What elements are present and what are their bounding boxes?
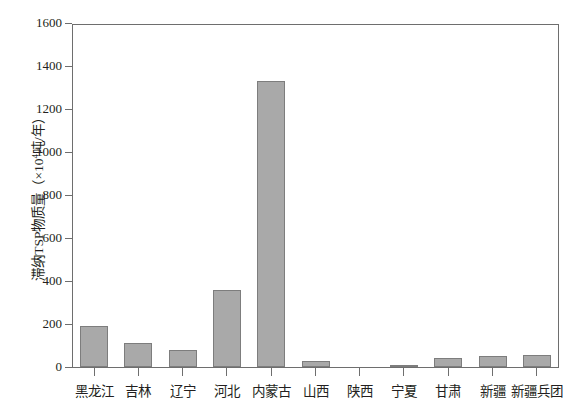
y-axis-tick-label: 1400 <box>20 58 62 74</box>
y-axis-tick <box>65 109 72 110</box>
x-axis-tick-label: 山西 <box>303 380 329 400</box>
x-axis-tick-label: 辽宁 <box>170 380 196 400</box>
bar <box>434 358 462 367</box>
x-axis-tick-label: 黑龙江 <box>75 380 114 400</box>
x-axis-tick <box>271 368 272 376</box>
y-axis-tick <box>65 23 72 24</box>
x-axis-tick-label: 新疆 <box>480 380 506 400</box>
bar <box>302 361 330 367</box>
bar <box>213 290 241 367</box>
x-axis-tick <box>403 368 404 376</box>
x-axis-tick-label: 新疆兵团 <box>511 380 563 400</box>
bar-chart: 滞纳TSP物质量（×104吨/年） 0200400600800100012001… <box>0 0 582 414</box>
bars-layer <box>73 25 558 367</box>
bar <box>124 343 152 367</box>
bar <box>479 356 507 367</box>
x-axis-tick-label: 内蒙古 <box>252 380 291 400</box>
y-axis-tick-label: 200 <box>20 316 62 332</box>
x-axis-tick <box>492 368 493 376</box>
x-axis-tick <box>315 368 316 376</box>
x-axis-tick <box>359 368 360 376</box>
x-axis-tick <box>94 368 95 376</box>
x-axis-tick <box>182 368 183 376</box>
y-axis-tick <box>65 324 72 325</box>
y-axis-tick-label: 600 <box>20 230 62 246</box>
y-axis-tick <box>65 66 72 67</box>
x-axis-tick <box>226 368 227 376</box>
x-axis-tick-label: 河北 <box>214 380 240 400</box>
x-axis-tick <box>138 368 139 376</box>
x-axis-tick <box>448 368 449 376</box>
y-axis-tick <box>65 281 72 282</box>
y-axis-tick <box>65 195 72 196</box>
y-axis-tick <box>65 152 72 153</box>
y-axis-tick <box>65 367 72 368</box>
y-axis-tick-label: 0 <box>20 359 62 375</box>
bar <box>390 365 418 367</box>
y-axis-tick-label: 400 <box>20 273 62 289</box>
x-axis-tick <box>536 368 537 376</box>
y-axis-tick-label: 1000 <box>20 144 62 160</box>
y-axis-tick-label: 1200 <box>20 101 62 117</box>
x-axis-tick-label: 甘肃 <box>435 380 461 400</box>
y-axis-title-prefix: 滞纳TSP物质量（×10 <box>31 158 46 280</box>
bar <box>257 81 285 367</box>
y-axis-tick-label: 1600 <box>20 15 62 31</box>
y-axis-tick <box>65 238 72 239</box>
y-axis-tick-label: 800 <box>20 187 62 203</box>
x-axis-tick-label: 吉林 <box>125 380 151 400</box>
bar <box>169 350 197 367</box>
bar <box>523 355 551 367</box>
x-axis-tick-label: 宁夏 <box>391 380 417 400</box>
x-axis-tick-label: 陕西 <box>347 380 373 400</box>
bar <box>80 326 108 367</box>
